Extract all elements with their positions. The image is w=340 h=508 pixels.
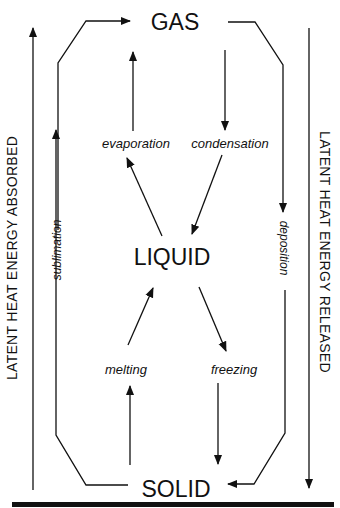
deposition-lower-arrow xyxy=(228,290,285,484)
axis-label-absorbed: LATENT HEAT ENERGY ABSORBED xyxy=(4,136,20,380)
label-sublimation: sublimation xyxy=(50,220,64,281)
bottom-rule xyxy=(12,502,334,507)
condensation-arrow-lower xyxy=(192,155,222,234)
label-deposition: deposition xyxy=(277,221,291,276)
deposition-upper-arrow xyxy=(228,22,283,212)
freezing-arrow-upper xyxy=(199,287,226,351)
label-condensation: condensation xyxy=(191,136,268,151)
sublimation-lower-arrow xyxy=(56,130,128,485)
state-liquid: LIQUID xyxy=(134,244,211,271)
label-melting: melting xyxy=(105,362,147,377)
label-evaporation: evaporation xyxy=(102,136,170,151)
melting-arrow-upper xyxy=(128,288,153,345)
axis-label-released: LATENT HEAT ENERGY RELEASED xyxy=(317,131,333,373)
label-freezing: freezing xyxy=(211,362,257,377)
state-solid: SOLID xyxy=(141,476,210,503)
sublimation-upper-path xyxy=(58,21,130,230)
evaporation-arrow-lower xyxy=(127,158,162,236)
state-gas: GAS xyxy=(151,9,200,36)
